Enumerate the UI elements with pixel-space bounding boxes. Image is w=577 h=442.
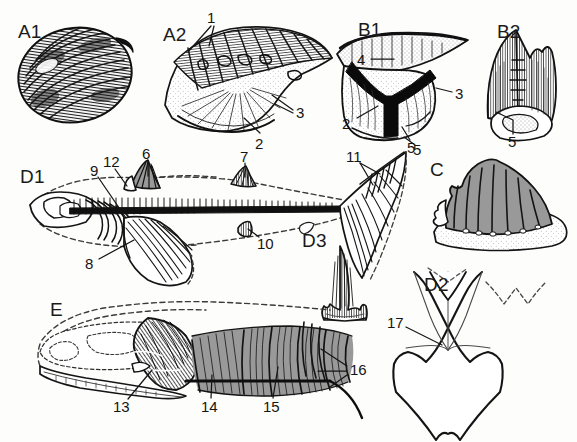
callout-16-e: 16 <box>350 362 367 377</box>
callout-8-d1: 8 <box>85 256 93 271</box>
panel-label-a2: A2 <box>163 25 187 44</box>
callout-5-d1: 5 <box>413 142 421 157</box>
panel-label-d3: D3 <box>302 231 327 250</box>
callout-9-d1: 9 <box>90 163 98 178</box>
callout-3-a2: 3 <box>296 105 304 120</box>
callout-3-b1: 3 <box>455 86 463 101</box>
panel-label-e: E <box>50 300 63 319</box>
panel-label-b2: B2 <box>497 22 521 41</box>
callout-13-e: 13 <box>113 399 130 414</box>
panel-label-a1: A1 <box>18 22 42 41</box>
illustration-plate: A1 A2 B1 B2 C D1 D2 D3 E 1 2 3 4 2 3 5 5… <box>0 0 577 442</box>
callout-6-d1: 6 <box>142 146 150 161</box>
callout-2-a2: 2 <box>255 136 263 151</box>
panel-label-d2: D2 <box>424 275 449 294</box>
callout-4-b1: 4 <box>357 52 365 67</box>
panel-label-b1: B1 <box>358 20 382 39</box>
callout-5-b2: 5 <box>508 134 516 149</box>
callout-2-b1: 2 <box>342 116 350 131</box>
panel-label-c: C <box>430 160 444 179</box>
callout-15-e: 15 <box>263 399 280 414</box>
callout-17-d2: 17 <box>387 315 404 330</box>
callout-10-d1: 10 <box>257 236 274 251</box>
callout-7-d1: 7 <box>240 149 248 164</box>
callout-1-a2: 1 <box>207 10 215 25</box>
callout-14-e: 14 <box>201 399 218 414</box>
callout-11-d1: 11 <box>346 149 362 164</box>
plate-artwork <box>0 0 577 442</box>
callout-12-d1: 12 <box>103 154 120 169</box>
panel-label-d1: D1 <box>20 167 45 186</box>
